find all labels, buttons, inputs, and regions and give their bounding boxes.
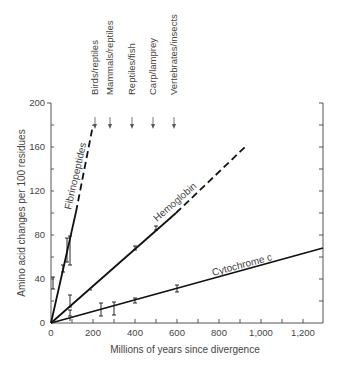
y-tick-160: 160: [29, 141, 45, 152]
y-tick-80: 80: [34, 229, 45, 240]
divergence-chart: 0 40 80 120 160 200 0 200 400 600 800 1,…: [0, 0, 339, 365]
divergence-arrows: [93, 117, 176, 129]
annotation-vertebrates-insects: Vertebrates/insects: [168, 14, 179, 95]
series-fibrinopeptides: [51, 125, 93, 323]
label-hemoglobin: Hemoglobin: [151, 180, 198, 223]
arrow-down-icon: [108, 117, 112, 129]
divergence-annotations: Birds/reptiles Mammals/reptiles Reptiles…: [89, 14, 179, 95]
arrow-down-icon: [93, 117, 97, 129]
annotation-reptiles-fish: Reptiles/fish: [126, 43, 137, 95]
x-tick-1000: 1,000: [249, 327, 273, 338]
y-tick-120: 120: [29, 185, 45, 196]
x-tick-400: 400: [127, 327, 143, 338]
x-tick-labels: 0 200 400 600 800 1,000 1,200: [48, 327, 315, 338]
series-cytochrome-c: [51, 248, 323, 323]
x-tick-0: 0: [48, 327, 53, 338]
arrow-down-icon: [172, 117, 176, 129]
x-tick-200: 200: [85, 327, 101, 338]
annotation-birds-reptiles: Birds/reptiles: [89, 40, 100, 95]
y-tick-200: 200: [29, 97, 45, 108]
arrow-down-icon: [151, 117, 155, 129]
y-axis-label: Amino acid changes per 100 residues: [16, 129, 27, 296]
arrow-down-icon: [130, 117, 134, 129]
x-tick-800: 800: [211, 327, 227, 338]
annotation-mammals-reptiles: Mammals/reptiles: [104, 20, 115, 95]
y-tick-40: 40: [34, 273, 45, 284]
x-tick-600: 600: [169, 327, 185, 338]
y-tick-labels: 0 40 80 120 160 200: [29, 97, 45, 328]
annotation-carp-lamprey: Carp/lamprey: [147, 38, 158, 95]
x-axis-label: Millions of years since divergence: [110, 344, 260, 355]
x-tick-1200: 1,200: [291, 327, 315, 338]
y-tick-0: 0: [40, 317, 45, 328]
label-fibrinopeptides: Fibrinopeptides: [62, 141, 88, 210]
